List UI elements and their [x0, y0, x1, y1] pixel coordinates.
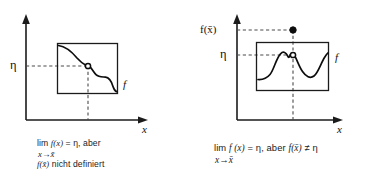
right-y-axis-arrow-icon — [233, 14, 241, 24]
right-x-axis-label: x — [337, 124, 342, 135]
right-caption-fx: f (x) — [229, 143, 245, 153]
left-caption-line-1: lim f(x) = η, aber — [37, 138, 104, 149]
right-open-circle-marker — [290, 52, 295, 57]
left-eta-label: η — [10, 59, 17, 72]
left-curve-left-branch — [59, 46, 87, 66]
right-caption-line-2: x→x̄ — [214, 155, 318, 167]
left-curve-label: f — [123, 79, 126, 90]
right-curve-label: f — [335, 52, 338, 63]
right-filled-dot-marker — [290, 27, 296, 33]
left-caption-fxbar: f(x̄) — [37, 159, 49, 169]
left-caption-line-2: x→x̄ — [37, 149, 104, 160]
right-caption-eq-eta: = η, aber — [245, 142, 289, 153]
right-caption: lim f (x) = η, aber f(x̄) ≠ η x→x̄ — [214, 142, 318, 167]
panel-right: f(x̄) η x̄ x f lim f (x) = η, aber f(x̄)… — [184, 0, 368, 182]
left-caption-lim: lim — [37, 138, 51, 148]
right-caption-line-1: lim f (x) = η, aber f(x̄) ≠ η — [214, 142, 318, 155]
left-caption-nicht-definiert: nicht definiert — [49, 159, 104, 169]
right-caption-lim: lim — [214, 142, 229, 153]
left-curve-right-branch — [90, 67, 117, 92]
right-fxbar-label: f(x̄) — [200, 24, 217, 35]
figure-root: η x̄ x f lim f(x) = η, aber x→x̄ f(x̄) n… — [0, 0, 368, 182]
left-caption-fx: f(x) — [51, 138, 63, 148]
right-caption-fxbar: f(x̄) — [288, 143, 301, 153]
left-y-axis-arrow-icon — [22, 14, 30, 24]
panel-left: η x̄ x f lim f(x) = η, aber x→x̄ f(x̄) n… — [0, 0, 184, 182]
left-x-axis-label: x — [142, 124, 147, 135]
right-curve-right-branch — [295, 53, 328, 77]
left-caption: lim f(x) = η, aber x→x̄ f(x̄) nicht defi… — [37, 138, 104, 170]
right-caption-neq-eta: ≠ η — [302, 142, 318, 153]
left-open-circle-marker — [85, 63, 90, 68]
left-caption-line-3: f(x̄) nicht definiert — [37, 159, 104, 170]
right-curve-left-branch — [258, 52, 291, 79]
right-eta-label: η — [220, 48, 227, 61]
left-caption-eq-eta: = η, aber — [63, 138, 101, 148]
